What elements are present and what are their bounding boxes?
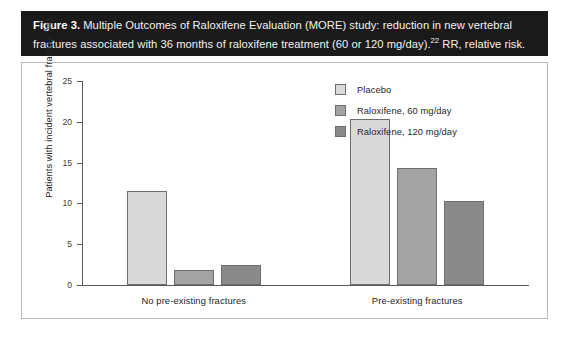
legend-item: Raloxifene, 120 mg/day bbox=[335, 121, 457, 142]
legend-item: Placebo bbox=[335, 79, 457, 100]
y-axis-title: Patients with incident vertebral fractur… bbox=[44, 6, 54, 211]
y-axis-tick-label: 10 bbox=[22, 198, 72, 208]
legend-swatch bbox=[335, 126, 346, 137]
y-axis-tick-label: 15 bbox=[22, 158, 72, 168]
bar bbox=[397, 168, 437, 285]
chart-panel: Patients with incident vertebral fractur… bbox=[21, 62, 548, 319]
legend-label: Placebo bbox=[357, 85, 391, 95]
legend-label: Raloxifene, 120 mg/day bbox=[357, 127, 457, 137]
figure-caption-abbrev: RR, relative risk. bbox=[439, 38, 525, 50]
x-axis-label: No pre-existing fractures bbox=[114, 295, 274, 306]
x-axis-label: Pre-existing fractures bbox=[337, 295, 497, 306]
legend-swatch bbox=[335, 84, 346, 95]
bar bbox=[444, 201, 484, 285]
figure-container: Figure 3. Multiple Outcomes of Raloxifen… bbox=[0, 0, 567, 341]
legend-label: Raloxifene, 60 mg/day bbox=[357, 106, 452, 116]
bar bbox=[221, 265, 261, 285]
figure-caption-reference: 22 bbox=[431, 36, 440, 45]
y-axis-tick-label: 25 bbox=[22, 76, 72, 86]
y-axis-tick-label: 0 bbox=[22, 280, 72, 290]
bar bbox=[127, 191, 167, 285]
y-axis-tick-label: 20 bbox=[22, 117, 72, 127]
figure-caption-text: Figure 3. Multiple Outcomes of Raloxifen… bbox=[33, 16, 536, 53]
chart-legend: PlaceboRaloxifene, 60 mg/dayRaloxifene, … bbox=[335, 79, 457, 142]
y-axis-tick bbox=[77, 285, 82, 286]
bars-layer bbox=[82, 81, 529, 285]
legend-swatch bbox=[335, 105, 346, 116]
x-axis-line bbox=[82, 285, 529, 286]
y-axis-tick-label: 5 bbox=[22, 239, 72, 249]
legend-item: Raloxifene, 60 mg/day bbox=[335, 100, 457, 121]
figure-caption-bar: Figure 3. Multiple Outcomes of Raloxifen… bbox=[21, 11, 548, 56]
bar bbox=[174, 270, 214, 286]
bar bbox=[350, 119, 390, 285]
plot-area: Patients with incident vertebral fractur… bbox=[22, 63, 547, 318]
figure-number-label: Figure 3. bbox=[33, 19, 80, 31]
